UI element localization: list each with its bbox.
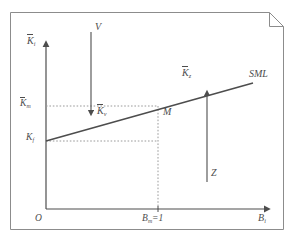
arrow-label-kv: Kv — [97, 106, 106, 116]
y-tick-kf-base: K — [26, 132, 32, 142]
arrow-label-kv-base: K — [97, 105, 104, 116]
point-label-m: M — [163, 107, 171, 117]
x-tick-betam-base: B — [142, 213, 148, 223]
arrow-label-kv-sub: v — [104, 110, 107, 117]
y-tick-kf-sub: f — [33, 137, 35, 143]
y-tick-km-sub: m — [27, 103, 31, 109]
x-tick-label-betam: Bm=1 — [142, 214, 163, 224]
arrow-label-v: V — [95, 22, 101, 32]
y-tick-km-base: K — [20, 98, 26, 108]
y-tick-label-km: Km — [20, 99, 31, 109]
plot-area — [0, 0, 295, 244]
arrow-label-z: Z — [211, 168, 217, 178]
line-label-kz-sub: z — [189, 72, 191, 79]
figure-root: Ki Km Kf O Bm=1 Bi SML Kz M V Kv Z — [0, 0, 295, 244]
y-axis-label-sub: i — [34, 40, 36, 47]
origin-label: O — [35, 214, 42, 224]
x-tick-betam-sub: m — [148, 218, 152, 224]
y-axis-label: Ki — [27, 36, 35, 46]
line-label-kz-base: K — [182, 67, 189, 78]
x-axis-label-sub: i — [264, 217, 266, 224]
sml-line — [46, 83, 253, 141]
sml-label: SML — [249, 69, 268, 79]
x-axis-label: Bi — [258, 213, 266, 223]
y-tick-label-kf: Kf — [26, 133, 34, 143]
x-tick-betam-suffix: =1 — [152, 213, 163, 223]
y-axis-label-base: K — [27, 35, 34, 46]
line-label-kz: Kz — [182, 68, 191, 78]
